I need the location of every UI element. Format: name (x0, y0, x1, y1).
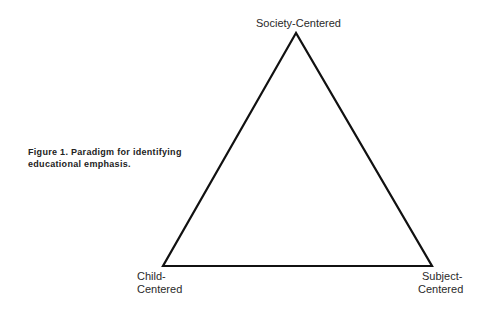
figure-caption: Figure 1. Paradigm for identifying educa… (28, 146, 182, 170)
caption-line2: educational emphasis. (28, 158, 182, 170)
vertex-label-subject-centered: Subject- Centered (418, 270, 463, 296)
subject-label-line2: Centered (418, 283, 463, 296)
caption-line1: Figure 1. Paradigm for identifying (28, 146, 182, 158)
subject-label-line1: Subject- (418, 270, 463, 283)
child-label-line1: Child- (137, 270, 182, 283)
vertex-label-society-centered: Society-Centered (256, 17, 341, 30)
vertex-label-child-centered: Child- Centered (137, 270, 182, 296)
child-label-line2: Centered (137, 283, 182, 296)
